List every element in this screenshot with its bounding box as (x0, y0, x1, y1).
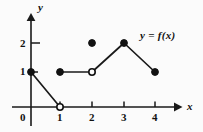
point-4-1-closed (152, 69, 159, 76)
curve-equation-label: y = f(x) (140, 30, 176, 41)
curve-branch-3 (92, 43, 155, 72)
x-tick-label-3: 3 (121, 112, 127, 123)
point-3-2-closed (121, 40, 128, 47)
x-tick-label-4: 4 (152, 112, 158, 123)
point-2-1-open (89, 69, 95, 75)
point-1-0-open (57, 104, 63, 110)
function-graph-figure: y x 2 1 0 1 2 3 4 y = f(x) (0, 0, 203, 132)
x-tick-label-1: 1 (57, 112, 63, 123)
curve-branch-1 (31, 72, 60, 107)
y-tick-label-1: 1 (20, 66, 26, 77)
y-tick-label-2: 2 (20, 38, 26, 49)
y-axis-label: y (38, 2, 43, 13)
plot-canvas (0, 0, 203, 132)
x-tick-label-0: 0 (20, 112, 26, 123)
point-0-1-closed (28, 69, 35, 76)
point-1-1-closed (57, 69, 64, 76)
x-axis-arrowhead (174, 103, 183, 112)
y-axis-arrowhead (27, 13, 36, 21)
x-tick-label-2: 2 (89, 112, 95, 123)
x-axis-label: x (187, 101, 193, 112)
point-2-2-closed (89, 40, 96, 47)
